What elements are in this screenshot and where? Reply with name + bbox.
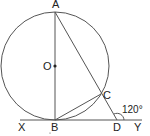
secant-ad [55,12,117,120]
label-o: O [43,60,52,72]
angle-label-120: 120° [122,104,143,115]
label-a: A [52,0,60,10]
label-x: X [18,121,26,133]
label-c: C [103,89,111,101]
center-point-o [53,64,56,67]
label-b: B [51,121,58,133]
label-y: Y [134,121,142,133]
geometry-diagram: A O B C D X Y 120° [0,0,150,136]
label-d: D [113,121,121,133]
chord-bc [55,94,101,120]
diagram-svg: A O B C D X Y 120° [0,0,150,136]
